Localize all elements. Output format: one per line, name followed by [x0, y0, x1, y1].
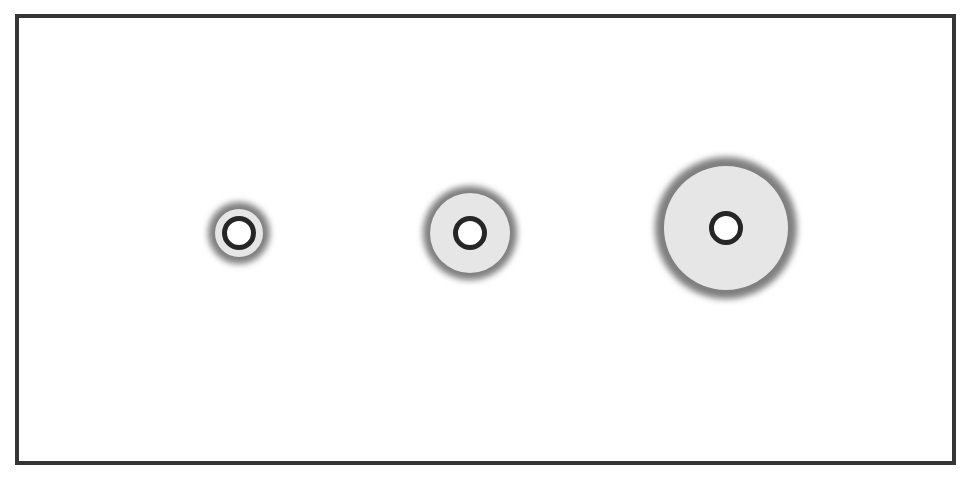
- marker-small-ring-icon: [225, 219, 254, 248]
- marker-small: [208, 202, 270, 264]
- marker-large: [655, 157, 797, 299]
- markers-layer: [0, 0, 974, 479]
- marker-large-ring-icon: [712, 214, 741, 243]
- marker-medium: [423, 186, 517, 280]
- diagram-canvas: Three concentric ring markers of increas…: [0, 0, 974, 479]
- marker-medium-ring-icon: [456, 219, 485, 248]
